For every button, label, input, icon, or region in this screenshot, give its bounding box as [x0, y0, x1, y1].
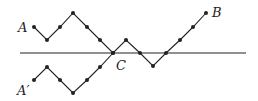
vertex-dot: [178, 38, 182, 42]
path-a-prime-vertices: [32, 51, 115, 95]
vertex-dot: [45, 38, 49, 42]
vertex-dot: [124, 38, 128, 42]
vertex-dot: [58, 25, 62, 29]
vertex-dot: [32, 25, 36, 29]
label-b: B: [211, 5, 222, 20]
reflection-diagram: A A′ B C: [0, 0, 258, 101]
vertex-dot: [204, 11, 208, 15]
vertex-dot: [32, 78, 36, 82]
vertex-dot: [191, 25, 195, 29]
vertex-dot: [98, 65, 102, 69]
vertex-dot: [164, 51, 168, 55]
vertex-dot: [85, 25, 89, 29]
label-a-prime: A′: [16, 83, 29, 98]
vertex-dot: [151, 64, 155, 68]
vertex-dot: [45, 65, 49, 69]
vertex-dot: [138, 51, 142, 55]
vertex-dot: [71, 11, 75, 15]
vertex-dot: [71, 91, 75, 95]
vertex-dot: [111, 51, 115, 55]
label-c: C: [116, 58, 126, 73]
vertex-dot: [85, 78, 89, 82]
vertex-dot: [58, 78, 62, 82]
path-a-prime-reflected: [34, 53, 113, 93]
label-a: A: [17, 20, 27, 35]
vertex-dot: [98, 38, 102, 42]
